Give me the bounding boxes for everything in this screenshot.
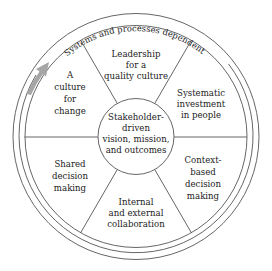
- svg-text:driven: driven: [122, 123, 150, 133]
- svg-text:investment: investment: [177, 99, 226, 109]
- svg-text:and external: and external: [109, 208, 164, 218]
- svg-text:and outcomes: and outcomes: [106, 145, 167, 155]
- svg-text:Systematic: Systematic: [177, 88, 225, 98]
- svg-text:decision: decision: [52, 171, 88, 181]
- svg-text:Context-: Context-: [184, 155, 221, 165]
- sector-culture-for-change: A culture for change: [54, 70, 86, 116]
- svg-text:making: making: [54, 183, 87, 193]
- svg-text:decision: decision: [185, 179, 221, 189]
- quality-culture-wheel-diagram: Systems and processes dependent Stakehol…: [0, 0, 272, 271]
- svg-text:vision, mission,: vision, mission,: [102, 134, 170, 144]
- svg-text:for a: for a: [126, 60, 146, 70]
- svg-text:collaboration: collaboration: [107, 219, 165, 229]
- sector-systematic-investment: Systematic investment in people: [177, 88, 226, 120]
- gray-curved-arrow-icon: [27, 62, 50, 95]
- svg-text:based: based: [190, 167, 216, 177]
- svg-text:quality culture: quality culture: [104, 71, 168, 81]
- svg-text:Internal: Internal: [119, 197, 154, 207]
- sector-leadership: Leadership for a quality culture: [104, 49, 168, 81]
- sector-collaboration: Internal and external collaboration: [107, 197, 165, 229]
- center-label: Stakeholder- driven vision, mission, and…: [102, 112, 170, 155]
- svg-text:in people: in people: [181, 110, 221, 120]
- svg-text:Shared: Shared: [54, 159, 86, 169]
- svg-text:change: change: [54, 106, 86, 116]
- svg-text:culture: culture: [54, 82, 85, 92]
- svg-text:making: making: [187, 191, 220, 201]
- svg-text:for: for: [64, 94, 77, 104]
- sector-context-based: Context- based decision making: [184, 155, 221, 201]
- sector-shared-decision: Shared decision making: [52, 159, 88, 193]
- svg-text:Stakeholder-: Stakeholder-: [108, 112, 164, 122]
- svg-text:Leadership: Leadership: [112, 49, 161, 59]
- svg-text:A: A: [66, 70, 74, 80]
